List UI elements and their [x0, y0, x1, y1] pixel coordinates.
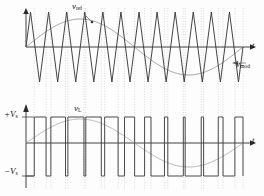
label-v-mod: vmod	[236, 60, 250, 70]
label-minus-vs: −Vs	[4, 167, 18, 177]
bottom-panel	[22, 104, 256, 188]
spwm-figure: vref vmod t t vL +Vs −Vs	[0, 0, 264, 196]
top-panel	[23, 8, 256, 82]
value-axis-bottom-arrowhead	[23, 104, 29, 112]
label-t-axis-bottom: t	[252, 136, 255, 145]
value-axis-top-arrowhead	[23, 8, 29, 14]
label-t-axis-top: t	[252, 41, 255, 50]
waveform-canvas	[0, 0, 264, 196]
label-v-ref: vref	[72, 2, 82, 12]
pwm-output-waveform	[26, 117, 243, 176]
label-v-L: vL	[74, 104, 81, 114]
vref-leader-dot	[91, 21, 94, 24]
label-plus-vs: +Vs	[4, 110, 18, 120]
